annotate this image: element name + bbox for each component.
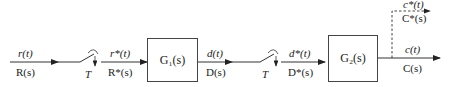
label-d-t: d(t) bbox=[207, 48, 223, 59]
block-g2: G₂(s) bbox=[328, 35, 378, 82]
label-D-s: D(s) bbox=[206, 67, 226, 78]
block-g1: G₁(s) bbox=[147, 38, 198, 82]
label-C-s: C(s) bbox=[403, 63, 422, 74]
block-g2-label: G₂(s) bbox=[340, 51, 366, 66]
sampler-2-switch bbox=[260, 54, 274, 62]
label-R-s: R(s) bbox=[16, 67, 35, 78]
sampler-2-label: T bbox=[262, 69, 268, 80]
sampler-1-label: T bbox=[85, 69, 91, 80]
label-r-t: r(t) bbox=[18, 48, 33, 59]
label-R-star-s: R*(s) bbox=[108, 67, 132, 78]
label-c-star-t: c*(t) bbox=[403, 0, 424, 10]
label-C-star-s: C*(s) bbox=[402, 13, 426, 24]
label-d-star-t: d*(t) bbox=[289, 48, 310, 59]
label-D-star-s: D*(s) bbox=[288, 67, 313, 78]
block-g1-label: G₁(s) bbox=[160, 53, 186, 68]
label-c-t: c(t) bbox=[405, 44, 420, 55]
sampler-1-switch bbox=[80, 54, 94, 62]
label-r-star-t: r*(t) bbox=[110, 48, 130, 59]
